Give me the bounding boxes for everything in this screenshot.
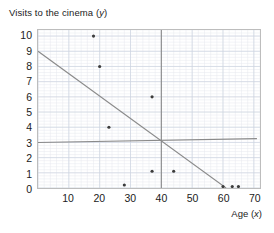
mean-y-line [38,139,257,143]
x-tick-label: 30 [117,193,143,203]
data-layer [38,30,260,188]
chart-title: Visits to the cinema (y) [9,7,107,18]
y-tick-label: 0 [8,184,32,194]
x-axis-title-suffix: ) [259,208,262,219]
data-point [237,185,240,188]
plot-area [37,29,261,189]
x-axis-title: Age (x) [231,208,262,219]
data-point [107,126,110,129]
x-tick-label: 40 [148,193,174,203]
y-tick-label: 3 [8,138,32,148]
x-tick-label: 70 [242,193,268,203]
y-tick-label: 6 [8,92,32,102]
data-point [150,95,153,98]
y-tick-label: 9 [8,46,32,56]
chart-title-prefix: Visits to the cinema ( [9,7,99,18]
y-tick-label: 2 [8,153,32,163]
data-point [221,185,224,188]
data-point [172,170,175,173]
scatter-plot-figure: Visits to the cinema (y) 012345678910 10… [0,0,274,233]
y-tick-label: 1 [8,169,32,179]
data-point [150,170,153,173]
data-point [92,34,95,37]
y-tick-label: 10 [8,30,32,40]
chart-title-suffix: ) [104,7,107,18]
x-tick-label: 20 [86,193,112,203]
x-tick-label: 10 [55,193,81,203]
x-tick-label: 50 [180,193,206,203]
y-tick-label: 8 [8,61,32,71]
x-tick-label: 60 [211,193,237,203]
y-tick-label: 4 [8,122,32,132]
data-point [123,183,126,186]
y-tick-label: 5 [8,107,32,117]
y-tick-label: 7 [8,76,32,86]
data-point [231,185,234,188]
x-axis-title-prefix: Age ( [231,208,254,219]
data-point [98,65,101,68]
fitted-line [38,51,226,188]
